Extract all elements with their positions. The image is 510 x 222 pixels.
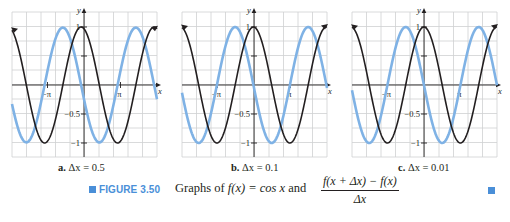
figure-number: FIGURE 3.50 — [99, 184, 160, 195]
subcaption-letter: b. — [231, 162, 239, 173]
y-tick-label: −0.5 — [235, 109, 250, 119]
graph-panel-c: xy−ππ1−0.5−1 — [340, 0, 510, 172]
graph-panel-a: xy−ππ1−0.5−1 — [0, 0, 170, 172]
y-axis-arrow-icon — [252, 8, 257, 13]
subcaption-letter: a. — [58, 162, 66, 173]
caption-prefix: Graphs of — [175, 181, 225, 195]
x-tick-label: π — [117, 89, 122, 99]
caption-function: f(x) = cos x — [228, 181, 285, 195]
fraction-numerator: f(x + Δx) − f(x) — [321, 174, 399, 191]
caption-and: and — [288, 181, 306, 195]
graph-a: xy−ππ1−0.5−1 — [0, 0, 170, 160]
graph-b: xy−ππ1−0.5−1 — [170, 0, 340, 160]
y-tick-label: −0.5 — [65, 109, 80, 119]
subcaption-a: a. Δx = 0.5 — [58, 162, 105, 173]
subcaption-text: Δx = 0.5 — [69, 162, 105, 173]
x-axis-label: x — [497, 86, 502, 96]
subcaption-text: Δx = 0.01 — [408, 162, 450, 173]
y-axis-arrow-icon — [422, 8, 427, 13]
y-tick-label: −1 — [71, 138, 80, 148]
difference-quotient: f(x + Δx) − f(x) Δx — [321, 174, 399, 207]
x-axis-label: x — [157, 86, 162, 96]
caption-square-marker-right — [488, 187, 495, 194]
graph-panel-b: xy−ππ1−0.5−1 — [170, 0, 340, 172]
subcaption-text: Δx = 0.1 — [242, 162, 278, 173]
y-tick-label: −1 — [241, 138, 250, 148]
axes: xy−ππ1−0.5−1 — [12, 5, 162, 157]
y-axis-arrow-icon — [82, 8, 87, 13]
graph-c: xy−ππ1−0.5−1 — [340, 0, 510, 160]
subcaption-b: b. Δx = 0.1 — [231, 162, 278, 173]
subcaption-letter: c. — [398, 162, 405, 173]
caption-square-marker-left — [89, 186, 96, 193]
y-axis-label: y — [76, 5, 81, 15]
caption-text: Graphs of f(x) = cos x and — [175, 181, 306, 196]
y-tick-label: −1 — [411, 138, 420, 148]
y-tick-label: −0.5 — [405, 109, 420, 119]
y-axis-label: y — [416, 5, 421, 15]
y-axis-label: y — [246, 5, 251, 15]
fraction-denominator: Δx — [321, 191, 399, 207]
subcaption-c: c. Δx = 0.01 — [398, 162, 449, 173]
